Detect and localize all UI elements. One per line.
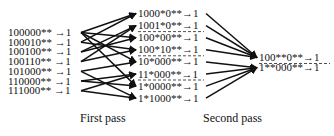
first-pass-term: 1000*0**→1 — [138, 7, 199, 19]
first-pass-terms-column: 1000*0**→11001*0**→1100*00**→1100*10**→1… — [138, 7, 199, 104]
second-pass-arrow — [206, 62, 257, 68]
first-pass-term: 1*0000**→1 — [138, 80, 199, 92]
first-pass-edges — [81, 14, 136, 99]
input-terms-column: 100000** →1100010** →1100100** →1100110*… — [8, 26, 71, 96]
first-pass-term: 100*10**→1 — [138, 43, 199, 55]
second-pass-arrow — [206, 26, 257, 58]
first-pass-term: 10*000**→1 — [138, 55, 199, 67]
second-pass-edges — [206, 14, 257, 99]
first-pass-arrow — [81, 14, 136, 43]
cube-merging-diagram: 100000** →1100010** →1100100** →1100110*… — [0, 0, 334, 136]
second-pass-terms-column: 100**0**→11**000**→1 — [259, 51, 320, 73]
input-term: 111000** →1 — [8, 84, 70, 96]
second-pass-label: Second pass — [203, 111, 262, 125]
second-pass-term: 1**000**→1 — [259, 61, 320, 73]
first-pass-label: First pass — [80, 111, 126, 125]
first-pass-term: 11*000**→1 — [138, 68, 198, 80]
first-pass-term: 1001*0**→1 — [138, 19, 199, 31]
first-pass-arrow — [81, 62, 136, 71]
first-pass-term: 1*1000**→1 — [138, 92, 199, 104]
first-pass-term: 100*00**→1 — [138, 31, 199, 43]
